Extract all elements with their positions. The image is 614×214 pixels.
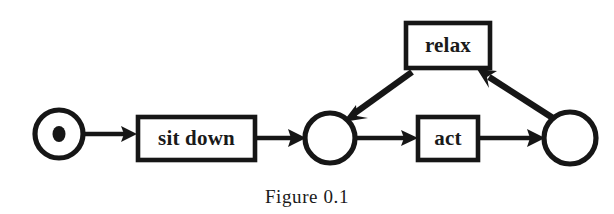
arc-sit-down-to-place2: [255, 129, 306, 147]
place-p1[interactable]: [35, 110, 83, 158]
transition-relax[interactable]: relax: [406, 23, 490, 68]
arc-line: [355, 72, 412, 113]
arc-place2-to-act: [355, 130, 418, 146]
figure-caption: Figure 0.1: [265, 186, 349, 207]
place-p3[interactable]: [544, 112, 596, 164]
place-circle: [544, 112, 596, 164]
arc-relax-to-place2: [343, 72, 412, 122]
arc-act-to-place3: [478, 129, 545, 147]
transition-sit-down[interactable]: sit down: [138, 117, 255, 160]
transition-act[interactable]: act: [418, 117, 478, 160]
place-p2[interactable]: [305, 113, 355, 163]
petri-net-diagram: sit down act relax Figure 0.1: [0, 0, 614, 214]
transition-label: relax: [425, 33, 471, 57]
arc-line: [489, 77, 556, 120]
transition-label: act: [434, 126, 461, 150]
transition-label: sit down: [158, 126, 235, 150]
place-circle: [305, 113, 355, 163]
arc-place1-to-sit-down: [84, 126, 137, 142]
figure-container: sit down act relax Figure 0.1: [0, 0, 614, 214]
arc-place3-to-relax: [477, 69, 556, 120]
token-dot: [53, 126, 66, 142]
